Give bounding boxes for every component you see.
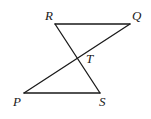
label-t: T bbox=[86, 51, 94, 66]
label-r: R bbox=[44, 8, 53, 23]
segment-pq bbox=[24, 24, 130, 93]
label-p: P bbox=[12, 94, 21, 109]
geometry-diagram: R Q T P S bbox=[0, 0, 151, 119]
label-s: S bbox=[99, 94, 106, 109]
label-q: Q bbox=[132, 8, 142, 23]
